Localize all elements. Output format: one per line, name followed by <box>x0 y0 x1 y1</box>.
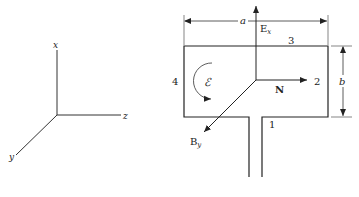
y-axis-label: y <box>8 152 15 162</box>
width-label: a <box>240 15 246 26</box>
magnetic-field-arrow <box>204 80 256 132</box>
height-label: b <box>339 76 345 87</box>
side-1-label: 1 <box>269 119 275 130</box>
z-axis-label: z <box>122 111 128 121</box>
x-axis-label: x <box>53 40 58 50</box>
side-3-label: 3 <box>288 35 294 46</box>
side-4-label: 4 <box>172 76 178 87</box>
side-2-label: 2 <box>314 76 320 87</box>
normal-vector-label: N <box>275 84 284 95</box>
electric-field-label: Ex <box>260 23 271 36</box>
emf-label: ℰ <box>204 76 212 89</box>
coordinate-axes <box>16 50 121 155</box>
magnetic-field-label: By <box>190 136 202 149</box>
diagram-canvas: x z y a b Ex N By ℰ 3 2 4 1 <box>0 0 359 197</box>
y-axis-line <box>16 115 57 155</box>
